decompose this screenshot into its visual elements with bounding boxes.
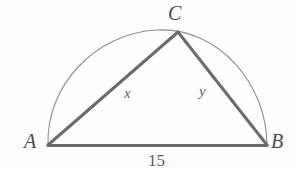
side-label-ac: x bbox=[124, 86, 131, 101]
side-label-cb: y bbox=[199, 84, 206, 99]
segment-ac bbox=[48, 32, 178, 145]
semicircle-arc bbox=[48, 30, 267, 145]
side-label-ab: 15 bbox=[148, 152, 165, 169]
vertex-label-b: B bbox=[271, 131, 283, 151]
vertex-label-a: A bbox=[24, 131, 36, 151]
segment-cb bbox=[178, 32, 267, 145]
vertex-label-c: C bbox=[168, 3, 181, 23]
figure-drawing-surface bbox=[0, 0, 296, 172]
geometry-figure: C A B x y 15 bbox=[0, 0, 296, 172]
